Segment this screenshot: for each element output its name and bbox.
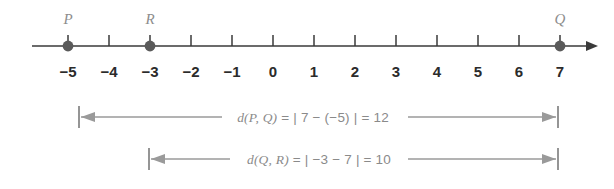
- point-labels: P R Q: [62, 11, 565, 27]
- measurement-expression-d-p-q: d(P, Q) = | 7 − (−5) | = 12: [237, 110, 389, 125]
- point-dot-r: [145, 41, 156, 52]
- tick-label: −4: [100, 63, 118, 80]
- axis-arrowhead-right-icon: [586, 41, 598, 51]
- measurement-expression-d-q-r: d(Q, R) = | −3 − 7 | = 10: [247, 152, 391, 167]
- tick-label: 4: [433, 63, 442, 80]
- tick-label: −3: [141, 63, 158, 80]
- tick-label: −1: [223, 63, 240, 80]
- tick-label: 2: [351, 63, 359, 80]
- number-line-diagram: P R Q −5 −4 −3 −2 −1 0 1 2 3 4 5 6 7 d(P…: [0, 0, 614, 189]
- tick-label: −2: [182, 63, 199, 80]
- tick-label: −5: [59, 63, 76, 80]
- point-dot-p: [63, 41, 74, 52]
- point-label-p: P: [62, 11, 72, 27]
- tick-label: 1: [310, 63, 318, 80]
- bracket-arrowhead-right-icon: [542, 112, 556, 122]
- bracket-arrowhead-right-icon: [542, 154, 556, 164]
- bracket-arrowhead-left-icon: [81, 112, 95, 122]
- point-dot-q: [555, 41, 566, 52]
- number-line-axis: [32, 41, 598, 51]
- tick-label: 0: [269, 63, 277, 80]
- bracket-arrowhead-left-icon: [151, 154, 165, 164]
- tick-label: 7: [556, 63, 564, 80]
- tick-number-labels: −5 −4 −3 −2 −1 0 1 2 3 4 5 6 7: [59, 63, 564, 80]
- measurement-bracket-d-p-q: d(P, Q) = | 7 − (−5) | = 12: [79, 106, 558, 128]
- tick-label: 3: [392, 63, 400, 80]
- measurement-bracket-d-q-r: d(Q, R) = | −3 − 7 | = 10: [149, 148, 558, 170]
- tick-label: 6: [515, 63, 523, 80]
- point-label-q: Q: [555, 11, 566, 27]
- tick-label: 5: [474, 63, 482, 80]
- tick-marks: [68, 35, 560, 46]
- point-label-r: R: [144, 11, 154, 27]
